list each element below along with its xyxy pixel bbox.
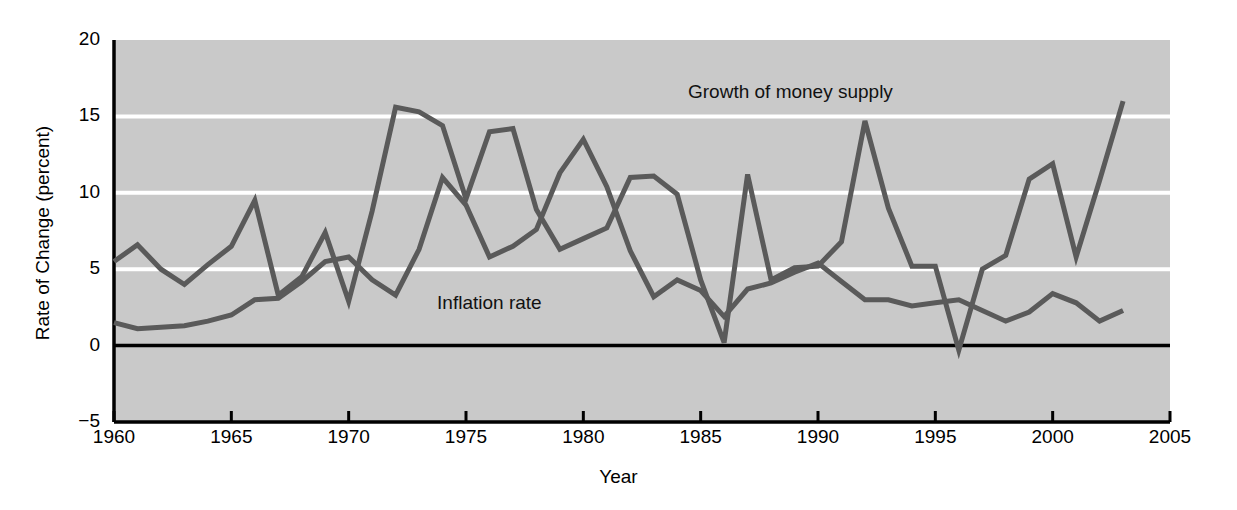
x-tick-label-1975: 1975 bbox=[431, 426, 501, 448]
series-annotation-inflation-rate: Inflation rate bbox=[437, 292, 542, 314]
x-tick-label-1965: 1965 bbox=[196, 426, 266, 448]
y-tick-label-5: 5 bbox=[54, 257, 100, 279]
x-tick-label-1960: 1960 bbox=[79, 426, 149, 448]
y-axis-label: Rate of Change (percent) bbox=[32, 126, 53, 340]
x-tick-label-1985: 1985 bbox=[666, 426, 736, 448]
chart-figure: Rate of Change (percent) Year 20151050−5… bbox=[0, 0, 1237, 510]
x-tick-label-2000: 2000 bbox=[1018, 426, 1088, 448]
y-tick-label-0: 0 bbox=[54, 334, 100, 356]
series-annotation-money-supply: Growth of money supply bbox=[688, 81, 893, 103]
x-tick-label-2005: 2005 bbox=[1135, 426, 1205, 448]
x-tick-label-1980: 1980 bbox=[548, 426, 618, 448]
x-tick-label-1995: 1995 bbox=[900, 426, 970, 448]
y-tick-label-20: 20 bbox=[54, 28, 100, 50]
x-axis-tick-labels: 1960196519701975198019851990199520002005 bbox=[0, 426, 1237, 456]
y-tick-label-15: 15 bbox=[54, 104, 100, 126]
x-axis-label: Year bbox=[0, 466, 1237, 488]
x-tick-label-1970: 1970 bbox=[314, 426, 384, 448]
y-axis-label-wrapper: Rate of Change (percent) bbox=[32, 83, 54, 383]
y-tick-label-10: 10 bbox=[54, 181, 100, 203]
x-tick-label-1990: 1990 bbox=[783, 426, 853, 448]
